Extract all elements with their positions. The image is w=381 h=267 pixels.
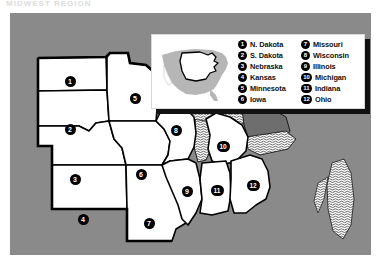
legend-badge: 8 [301, 51, 310, 60]
legend-label: Kansas [250, 73, 276, 82]
legend-label: Illinois [313, 62, 336, 71]
state-badge-michigan: 10 [217, 141, 230, 152]
legend-column-right: 7 Missouri 8 Wisconsin 9 Illinois 10 Mic… [301, 39, 362, 105]
map-page: MIDWEST REGION [0, 0, 381, 267]
legend-column-left: 1 N. Dakota 2 S. Dakota 3 Nebraska 4 Kan… [238, 39, 299, 105]
legend-item: 3 Nebraska [238, 61, 299, 72]
legend-label: Nebraska [250, 62, 282, 71]
legend-label: Michigan [315, 73, 346, 82]
legend-item: 7 Missouri [301, 39, 362, 50]
state-badge-nebraska: 3 [70, 174, 81, 185]
legend-item: 11 Indiana [301, 83, 362, 94]
state-badge-iowa: 6 [136, 169, 147, 180]
state-badge-kansas: 4 [78, 214, 89, 225]
legend-item: 9 Illinois [301, 61, 362, 72]
lake-huron-water [242, 109, 290, 153]
state-badge-indiana: 11 [211, 185, 224, 196]
legend-badge: 1 [238, 40, 247, 49]
legend-badge: 3 [238, 62, 247, 71]
legend-badge: 7 [301, 40, 310, 49]
state-badge-s-dakota: 2 [65, 124, 76, 135]
us-locator-inset-graphic [156, 39, 234, 105]
legend-badge: 6 [238, 95, 247, 104]
legend-box: 1 N. Dakota 2 S. Dakota 3 Nebraska 4 Kan… [151, 34, 365, 109]
legend-item: 4 Kansas [238, 72, 299, 83]
state-badge-missouri: 7 [144, 218, 155, 229]
legend-label: Missouri [313, 40, 343, 49]
lake-erie-water [246, 131, 296, 155]
legend-item-lists: 1 N. Dakota 2 S. Dakota 3 Nebraska 4 Kan… [236, 35, 364, 108]
legend-badge: 10 [301, 73, 312, 82]
legend-badge: 12 [301, 95, 312, 104]
legend-item: 12 Ohio [301, 94, 362, 105]
state-badge-illinois: 9 [182, 186, 193, 197]
legend-label: S. Dakota [250, 51, 283, 60]
state-badge-minnesota: 5 [130, 93, 141, 104]
legend-badge: 9 [301, 62, 310, 71]
legend-badge: 11 [301, 84, 312, 93]
legend-label: Minnesota [250, 84, 286, 93]
legend-item: 8 Wisconsin [301, 50, 362, 61]
state-badge-wisconsin: 8 [171, 125, 182, 136]
state-badge-n-dakota: 1 [65, 76, 76, 87]
state-badge-ohio: 12 [247, 180, 260, 191]
legend-item: 2 S. Dakota [238, 50, 299, 61]
legend-badge: 4 [238, 73, 247, 82]
legend-label: Ohio [315, 95, 331, 104]
us-locator-inset [156, 39, 234, 104]
legend-label: Indiana [315, 84, 340, 93]
legend-badge: 2 [238, 51, 247, 60]
state-minnesota [107, 53, 157, 121]
clipped-title-text: MIDWEST REGION [6, 0, 146, 7]
legend-item: 10 Michigan [301, 72, 362, 83]
atlantic-coast-water [314, 159, 354, 239]
legend-item: 5 Minnesota [238, 83, 299, 94]
legend-label: Iowa [250, 95, 266, 104]
legend-label: Wisconsin [313, 51, 349, 60]
legend-badge: 5 [238, 84, 247, 93]
legend-item: 1 N. Dakota [238, 39, 299, 50]
map-plate: 1 N. Dakota 2 S. Dakota 3 Nebraska 4 Kan… [10, 13, 371, 255]
legend-label: N. Dakota [250, 40, 283, 49]
state-kansas [52, 165, 127, 209]
legend-item: 6 Iowa [238, 94, 299, 105]
